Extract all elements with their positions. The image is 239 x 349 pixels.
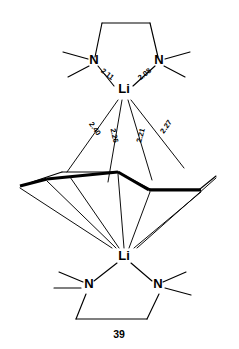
distance-label-li-top-c1: 2.40 <box>87 120 103 137</box>
contact-c2-li-bottom <box>47 181 116 248</box>
distance-label-li-top-c4: 2.27 <box>158 118 174 135</box>
atom-label-lithium-bottom: Li <box>118 248 130 263</box>
atom-label-lithium-top: Li <box>118 81 130 96</box>
bond-ntr-methyl-b <box>164 66 185 77</box>
cyclopentadienyl-ring <box>20 172 216 248</box>
figure-number-label: 39 <box>113 328 125 340</box>
chemical-structure-diagram: N N 2.11 2.08 Li 2.40 2.26 2.21 2.27 <box>0 0 239 349</box>
bond-ch2-nbr <box>147 294 159 319</box>
bond-nbl-methyl-a <box>59 272 83 282</box>
distance-label-li-top-c2: 2.26 <box>109 128 121 144</box>
distance-label-n-left-li-top: 2.11 <box>99 66 116 82</box>
top-tmeda-ligand: N N 2.11 2.08 <box>63 23 190 86</box>
ring-edge-front-mid-bold <box>118 172 149 190</box>
bond-li-bottom-nbr <box>131 263 152 281</box>
bond-li-bottom-nbl <box>94 263 117 281</box>
bond-nbr-methyl-b <box>165 288 191 295</box>
atom-label-nitrogen-bottom-left: N <box>84 276 93 291</box>
li-top-ring-contacts: 2.40 2.26 2.21 2.27 <box>67 100 184 182</box>
ring-edge-far-right <box>200 176 216 189</box>
contact-c3-li-bottom <box>70 177 119 248</box>
atom-label-nitrogen-bottom-right: N <box>153 276 162 291</box>
bond-nbl-ch2 <box>76 294 86 319</box>
atom-label-nitrogen-top-right: N <box>154 52 163 67</box>
figure-container: THE CHEMISTRY AND PHYSICS OF X-RAYS SOUR… <box>0 0 239 349</box>
distance-label-li-top-c3: 2.21 <box>134 127 147 143</box>
atom-label-nitrogen-top-left: N <box>89 52 98 67</box>
bond-ntr-methyl-a <box>165 52 190 59</box>
bond-nbr-methyl-a <box>163 272 186 282</box>
contact-c4-li-bottom <box>118 174 124 248</box>
bottom-tmeda-ligand: N N <box>54 263 191 319</box>
bond-ntl-methyl-b <box>68 66 89 77</box>
distance-label-n-right-li-top: 2.08 <box>136 66 153 82</box>
ring-edge-front-left-bold <box>20 179 47 186</box>
bond-ntl-methyl-a <box>63 52 88 59</box>
